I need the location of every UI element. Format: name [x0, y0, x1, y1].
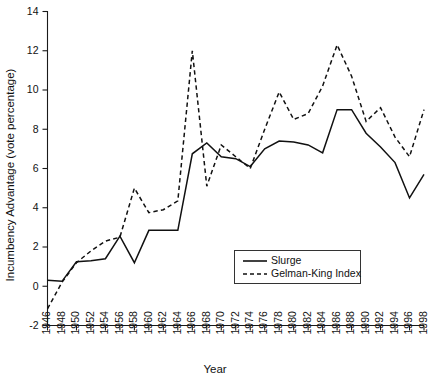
legend-label-gelman-king-index: Gelman-King Index: [271, 267, 362, 279]
x-tick-label: 1992: [373, 311, 385, 335]
incumbency-advantage-line-chart: -202468101214 19461948195019521954195619…: [0, 0, 431, 380]
legend: Slurge Gelman-King Index: [235, 251, 362, 284]
x-axis-title: Year: [203, 363, 226, 375]
x-tick-label: 1948: [55, 311, 67, 335]
y-tick-label: 12: [27, 44, 39, 56]
y-tick-label: 10: [27, 83, 39, 95]
x-tick-label: 1962: [156, 311, 168, 335]
x-axis: 1946194819501952195419561958196019621964…: [40, 311, 429, 335]
y-tick-label: 2: [33, 240, 39, 252]
x-tick-label: 1980: [286, 311, 298, 335]
x-tick-label: 1986: [330, 311, 342, 335]
legend-label-slurge: Slurge: [271, 254, 302, 266]
chart-container: -202468101214 19461948195019521954195619…: [0, 0, 431, 380]
x-tick-label: 1990: [359, 311, 371, 335]
x-tick-label: 1988: [344, 311, 356, 335]
y-tick-label: 4: [33, 201, 39, 213]
x-tick-label: 1958: [127, 311, 139, 335]
x-tick-label: 1950: [69, 311, 81, 335]
y-tick-label: 14: [27, 5, 39, 17]
x-tick-label: 1982: [301, 311, 313, 335]
x-tick-label-group: 1946194819501952195419561958196019621964…: [40, 311, 429, 335]
x-tick-label: 1966: [185, 311, 197, 335]
x-tick-label: 1952: [84, 311, 96, 335]
x-tick-label: 1968: [200, 311, 212, 335]
x-tick-label: 1960: [142, 311, 154, 335]
x-tick-label: 1978: [272, 311, 284, 335]
x-tick-label: 1984: [315, 311, 327, 335]
x-tick-label: 1974: [243, 311, 255, 335]
x-tick-label: 1976: [257, 311, 269, 335]
x-tick-label: 1970: [214, 311, 226, 335]
x-tick-label: 1998: [417, 311, 429, 335]
x-tick-label: 1946: [40, 311, 52, 335]
x-tick-label: 1964: [171, 311, 183, 335]
y-tick-label-group: -202468101214: [27, 5, 39, 331]
y-axis: -202468101214: [27, 5, 48, 331]
y-tick-label: 8: [33, 123, 39, 135]
y-tick-label: 6: [33, 162, 39, 174]
y-tick-label: 0: [33, 280, 39, 292]
x-tick-label: 1996: [402, 311, 414, 335]
y-tick-label: -2: [29, 319, 38, 331]
x-tick-label: 1994: [388, 311, 400, 335]
x-tick-label: 1954: [98, 311, 110, 335]
y-axis-title: Incumbency Advantage (vote percentage): [4, 68, 16, 281]
y-tick-group: [43, 12, 48, 326]
x-tick-label: 1956: [113, 311, 125, 335]
x-tick-label: 1972: [229, 311, 241, 335]
